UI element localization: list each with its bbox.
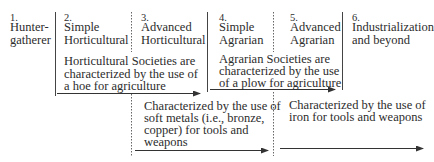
stage-6-label-line2: and beyond xyxy=(352,34,410,47)
iron-desc-line2: iron for tools and weapons xyxy=(289,111,422,124)
soft-metals-desc-line4: weapons xyxy=(144,136,188,149)
stage-4-label-line2: Agrarian xyxy=(219,34,263,47)
horticultural-desc-line3: a hoe for agriculture xyxy=(64,80,166,93)
stage-5-label-line2: Agrarian xyxy=(290,34,334,47)
stage-2-label-line2: Horticultural xyxy=(64,34,129,47)
stage-1-label-line2: gatherer xyxy=(10,34,51,47)
agrarian-desc-line3: of a plow for agriculture xyxy=(219,77,341,90)
stage-3-label-line2: Horticultural xyxy=(141,34,206,47)
